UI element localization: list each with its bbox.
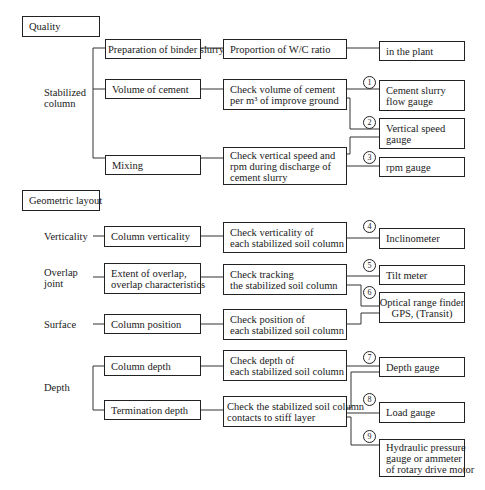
category-stabilized-column: Stabilizedcolumn	[44, 87, 86, 109]
device-load-gauge: Load gauge	[379, 402, 465, 423]
check-verticality: Check verticality ofeach stabilized soil…	[223, 222, 347, 253]
category-verticality: Verticality	[44, 231, 88, 242]
marker-8: 8	[363, 393, 376, 406]
device-flow-gauge: Cement slurryflow gauge	[379, 80, 465, 111]
device-depth-gauge: Depth gauge	[379, 357, 465, 377]
item-binder-slurry: Preparation of binder slurry	[105, 39, 201, 59]
section-geometric-layout: Geometric layout	[22, 190, 100, 211]
check-volume: Check volume of cementper m³ of improve …	[223, 79, 347, 110]
marker-3: 3	[363, 151, 376, 164]
device-hydraulic: Hydraulic pressuregauge or ammeterof rot…	[379, 439, 465, 477]
check-tracking: Check trackingthe stabilized soil column	[223, 264, 347, 295]
item-volume-cement: Volume of cement	[105, 79, 201, 99]
item-overlap: Extent of overlap,overlap characteristic…	[104, 263, 201, 294]
marker-5: 5	[363, 259, 376, 272]
item-column-position: Column position	[104, 314, 201, 334]
item-column-depth: Column depth	[104, 356, 201, 376]
item-mixing: Mixing	[105, 155, 201, 175]
category-overlap-joint: Overlapjoint	[44, 267, 78, 289]
check-vertical-speed: Check vertical speed andrpm during disch…	[223, 147, 347, 185]
section-geometric-label: Geometric layout	[29, 195, 93, 206]
section-quality-label: Quality	[29, 21, 93, 32]
device-optical-gps: Optical range finderGPS, (Transit)	[379, 292, 465, 323]
marker-2: 2	[363, 116, 376, 129]
category-depth: Depth	[44, 382, 70, 393]
check-stiff-layer: Check the stabilized soil columncontacts…	[223, 396, 347, 427]
marker-7: 7	[363, 351, 376, 364]
check-depth: Check depth ofeach stabilized soil colum…	[223, 350, 347, 381]
section-quality: Quality	[22, 16, 100, 37]
marker-1: 1	[363, 76, 376, 89]
marker-6: 6	[363, 286, 376, 299]
device-tilt-meter: Tilt meter	[379, 265, 465, 285]
device-speed-gauge: Vertical speedgauge	[379, 118, 465, 149]
check-wc-ratio: Proportion of W/C ratio	[223, 39, 347, 59]
device-inclinometer: Inclinometer	[379, 228, 465, 249]
marker-9: 9	[363, 430, 376, 443]
category-surface: Surface	[44, 319, 76, 330]
item-column-verticality: Column verticality	[104, 226, 201, 247]
device-plant: in the plant	[379, 41, 465, 61]
marker-4: 4	[363, 220, 376, 233]
device-rpm-gauge: rpm gauge	[379, 157, 465, 177]
check-position: Check position ofeach stabilized soil co…	[223, 309, 347, 340]
item-termination-depth: Termination depth	[104, 400, 201, 420]
